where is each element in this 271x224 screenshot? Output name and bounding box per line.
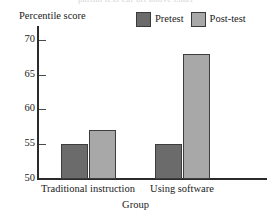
bar-post-test-traditional-instruction	[89, 130, 116, 179]
bar-pretest-using-software	[155, 144, 182, 179]
chart-figure: partial text cut off above chart Pretest…	[0, 0, 271, 224]
x-category-label-1: Using software	[107, 183, 257, 194]
bar-pretest-traditional-instruction	[61, 144, 88, 179]
bar-series-container	[0, 0, 271, 180]
bar-post-test-using-software	[183, 54, 210, 179]
x-axis-title: Group	[0, 199, 271, 210]
